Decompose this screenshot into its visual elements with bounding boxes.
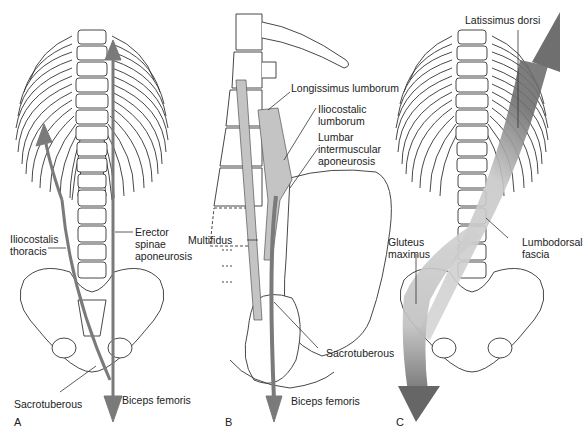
label-latissimus-dorsi: Latissimus dorsi — [465, 14, 540, 26]
label-sacrotuberous-b: Sacrotuberous — [326, 347, 394, 359]
panel-letter-a: A — [14, 416, 21, 428]
label-lumbodorsal-fascia: Lumbodorsal fascia — [522, 236, 583, 260]
label-gluteus-maximus: Gluteus maximus — [388, 236, 430, 260]
label-multifidus: Multifidus — [188, 234, 232, 246]
panel-a-spine — [76, 30, 108, 278]
label-line: Iliocostalic — [318, 103, 366, 115]
label-line: Iliocostalis — [10, 233, 58, 245]
label-line: aponeurosis — [135, 250, 192, 262]
panel-a-pelvis — [20, 268, 164, 372]
label-line: aponeurosis — [318, 155, 381, 167]
label-lumbar-intermuscular-aponeurosis: Lumbar intermuscular aponeurosis — [318, 131, 381, 167]
label-line: fascia — [522, 248, 583, 260]
label-line: maximus — [388, 248, 430, 260]
label-line: thoracis — [10, 245, 58, 257]
panel-letter-c: C — [396, 416, 404, 428]
label-sacrotuberous-a: Sacrotuberous — [14, 398, 82, 410]
label-iliocostalis-lumborum: Iliocostalic lumborum — [318, 103, 366, 127]
label-line: lumborum — [318, 115, 366, 127]
label-longissimus-lumborum: Longissimus lumborum — [291, 82, 399, 94]
panel-letter-b: B — [225, 416, 232, 428]
label-line: intermuscular — [318, 143, 381, 155]
label-line: spinae — [135, 238, 192, 250]
label-erector-spinae: Erector spinae aponeurosis — [135, 226, 192, 262]
label-line: Erector — [135, 226, 192, 238]
label-line: Lumbar — [318, 131, 381, 143]
label-iliocostalis-thoracis: Iliocostalis thoracis — [10, 233, 58, 257]
label-biceps-femoris-a: Biceps femoris — [122, 394, 191, 406]
label-line: Gluteus — [388, 236, 430, 248]
anatomy-illustration — [0, 0, 588, 432]
label-line: Lumbodorsal — [522, 236, 583, 248]
label-biceps-femoris-b: Biceps femoris — [291, 395, 360, 407]
